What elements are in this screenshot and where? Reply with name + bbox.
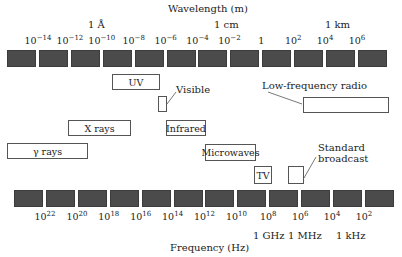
- frequency-tick-label: 102: [348, 211, 380, 222]
- scale-block: [237, 190, 266, 207]
- scale-block: [110, 190, 139, 207]
- frequency-tick-label: 1022: [29, 211, 61, 222]
- scale-block: [78, 190, 107, 207]
- frequency-tick-label: 1018: [93, 211, 125, 222]
- frequency-tick-label: 1020: [61, 211, 93, 222]
- frequency-tick-label: 1014: [157, 211, 189, 222]
- landmark-1-ghz: 1 GHz: [253, 230, 285, 241]
- scale-block: [301, 190, 330, 207]
- frequency-tick-label: 106: [284, 211, 316, 222]
- scale-block: [269, 190, 298, 207]
- scale-block: [365, 190, 394, 207]
- frequency-tick-label: 108: [252, 211, 284, 222]
- scale-block: [46, 190, 75, 207]
- scale-block: [333, 190, 362, 207]
- scale-block: [14, 190, 43, 207]
- frequency-tick-label: 104: [316, 211, 348, 222]
- landmark-1-khz: 1 kHz: [336, 230, 366, 241]
- frequency-tick-label: 1016: [125, 211, 157, 222]
- scale-block: [174, 190, 203, 207]
- scale-block: [142, 190, 171, 207]
- frequency-tick-label: 1012: [189, 211, 221, 222]
- scale-block: [205, 190, 234, 207]
- landmark-1-mhz: 1 MHz: [288, 230, 322, 241]
- frequency-tick-label: 1010: [220, 211, 252, 222]
- frequency-axis-title: Frequency (Hz): [170, 242, 249, 253]
